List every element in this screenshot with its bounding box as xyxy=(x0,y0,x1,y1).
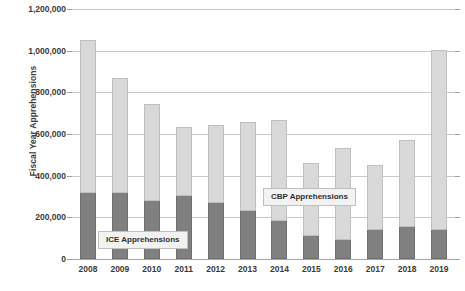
bar-segment-cbp xyxy=(431,50,447,230)
bar-segment-ice xyxy=(271,221,287,259)
y-axis-tick-label: 200,000 xyxy=(4,212,66,222)
y-axis-tick-label: 800,000 xyxy=(4,87,66,97)
bar-segment-cbp xyxy=(399,140,415,227)
bar-group xyxy=(431,50,447,259)
legend-label-cbp: CBP Apprehensions xyxy=(263,188,356,206)
bar-segment-cbp xyxy=(208,125,224,203)
y-axis-tick-mark xyxy=(455,259,460,260)
bar-group xyxy=(367,165,383,259)
y-axis-tick-mark xyxy=(455,92,460,93)
y-axis-tick-mark xyxy=(455,51,460,52)
bar-segment-ice xyxy=(399,227,415,259)
y-axis-tick-mark xyxy=(67,259,72,260)
bar-group xyxy=(80,40,96,259)
gridline xyxy=(72,9,455,10)
gridline xyxy=(72,134,455,135)
bar-segment-ice xyxy=(208,203,224,259)
bar-segment-ice xyxy=(303,236,319,259)
gridline xyxy=(72,92,455,93)
y-axis-tick-mark xyxy=(455,176,460,177)
stacked-bar-chart: Fiscal Year Apprehensions 1,200,0001,000… xyxy=(0,0,465,291)
y-axis-tick-label: 1,200,000 xyxy=(4,4,66,14)
gridline xyxy=(72,217,455,218)
y-axis-tick-mark xyxy=(67,134,72,135)
y-axis-tick-label: 0 xyxy=(4,254,66,264)
y-axis-tick-label: 1,000,000 xyxy=(4,46,66,56)
bar-segment-cbp xyxy=(80,40,96,193)
bar-segment-ice xyxy=(240,211,256,259)
y-axis-tick-mark xyxy=(455,217,460,218)
y-axis-tick-mark xyxy=(67,92,72,93)
bar-group xyxy=(303,163,319,259)
x-axis-tick-labels: 2008200920102011201220132014201520162017… xyxy=(72,264,455,282)
bar-segment-cbp xyxy=(367,165,383,230)
bar-group xyxy=(240,122,256,259)
y-axis-tick-label: 600,000 xyxy=(4,129,66,139)
y-axis-tick-mark xyxy=(455,9,460,10)
y-axis-tick-mark xyxy=(455,134,460,135)
bar-segment-ice xyxy=(431,230,447,259)
x-axis-tick-label: 2019 xyxy=(419,264,459,274)
y-axis-tick-mark xyxy=(67,176,72,177)
bar-group xyxy=(208,125,224,259)
y-axis-tick-label: 400,000 xyxy=(4,171,66,181)
plot-area xyxy=(72,9,455,259)
bar-segment-ice xyxy=(335,240,351,259)
gridline xyxy=(72,176,455,177)
bar-segment-ice xyxy=(112,193,128,259)
y-axis-tick-labels: 1,200,0001,000,000800,000600,000400,0002… xyxy=(0,9,66,259)
bar-group xyxy=(399,140,415,259)
gridline xyxy=(72,51,455,52)
bar-segment-ice xyxy=(367,230,383,259)
bar-segment-cbp xyxy=(112,78,128,193)
legend-label-ice: ICE Apprehensions xyxy=(98,231,188,249)
bar-segment-cbp xyxy=(240,122,256,211)
y-axis-tick-mark xyxy=(67,9,72,10)
bar-segment-cbp xyxy=(144,104,160,201)
bar-segment-ice xyxy=(176,196,192,259)
y-axis-tick-mark xyxy=(67,51,72,52)
bar-segment-cbp xyxy=(176,127,192,196)
y-axis-tick-mark xyxy=(67,217,72,218)
gridline xyxy=(72,259,455,260)
bar-segment-ice xyxy=(80,193,96,259)
